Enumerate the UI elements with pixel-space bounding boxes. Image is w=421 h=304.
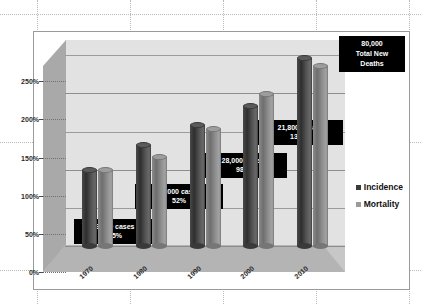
bar-mortality-2010[interactable] <box>313 63 328 246</box>
y-axis-label-0: 0% <box>11 269 39 276</box>
bar-base <box>98 243 113 249</box>
bar-cap <box>313 63 328 69</box>
summary-box-line2: Total New <box>343 49 401 59</box>
bar-body <box>190 125 205 246</box>
gridline-side-0 <box>43 272 66 273</box>
bar-body <box>206 129 221 246</box>
bar-incidence-2010[interactable] <box>297 55 312 246</box>
legend-label-mortality: Mortality <box>364 199 399 209</box>
bar-body <box>297 58 312 246</box>
bar-base <box>259 243 274 249</box>
bar-body <box>243 106 258 246</box>
bar-incidence-1990[interactable] <box>190 122 205 246</box>
bar-incidence-1980[interactable] <box>136 142 151 246</box>
bar-cap <box>82 167 97 173</box>
plot-area: 0%50%100%150%200%250% 197019801990200020… <box>43 40 345 272</box>
summary-box-total-new-deaths: 80,000 Total New Deaths <box>339 36 405 72</box>
y-axis-label-250: 250% <box>11 78 39 85</box>
y-axis-label-150: 150% <box>11 154 39 161</box>
bar-base <box>136 243 151 249</box>
bar-base <box>243 243 258 249</box>
guide-line-horizontal <box>0 14 421 15</box>
bar-incidence-2000[interactable] <box>243 103 258 246</box>
bar-base <box>190 243 205 249</box>
y-axis-tick <box>39 272 43 273</box>
summary-box-number: 80,000 <box>343 39 401 49</box>
bar-body <box>82 170 97 246</box>
bar-base <box>297 243 312 249</box>
bar-incidence-1970[interactable] <box>82 167 97 246</box>
y-axis-label-200: 200% <box>11 116 39 123</box>
bar-cap <box>206 126 221 132</box>
legend-item-incidence[interactable]: Incidence <box>356 182 403 192</box>
y-axis-label-100: 100% <box>11 192 39 199</box>
bar-mortality-1970[interactable] <box>98 167 113 246</box>
chart-container[interactable]: 0%50%100%150%200%250% 197019801990200020… <box>33 31 410 290</box>
legend-swatch-mortality-icon <box>356 202 361 207</box>
bar-body <box>313 66 328 246</box>
bar-cap <box>98 167 113 173</box>
bar-mortality-2000[interactable] <box>259 91 274 246</box>
summary-box-line3: Deaths <box>343 59 401 69</box>
bar-series-group <box>43 40 345 272</box>
bar-body <box>136 145 151 246</box>
bar-body <box>152 157 167 246</box>
bar-base <box>82 243 97 249</box>
bar-base <box>152 243 167 249</box>
bar-base <box>313 243 328 249</box>
bar-mortality-1990[interactable] <box>206 126 221 246</box>
bar-mortality-1980[interactable] <box>152 154 167 246</box>
legend-item-mortality[interactable]: Mortality <box>356 199 403 209</box>
bar-cap <box>152 154 167 160</box>
legend-swatch-incidence-icon <box>356 185 361 190</box>
y-axis-label-50: 50% <box>11 230 39 237</box>
chart-legend: IncidenceMortality <box>356 182 403 216</box>
bar-body <box>259 94 274 246</box>
bar-base <box>206 243 221 249</box>
legend-label-incidence: Incidence <box>364 182 403 192</box>
bar-body <box>98 170 113 246</box>
